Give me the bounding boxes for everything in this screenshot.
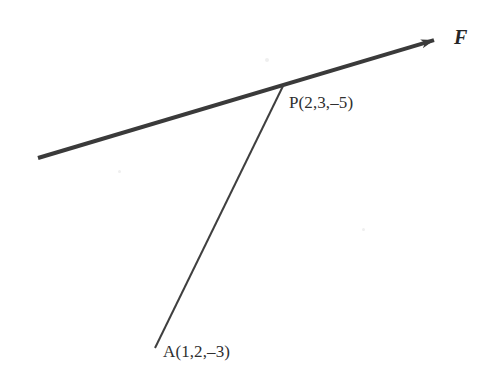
scan-speck — [118, 170, 121, 173]
scan-speck — [265, 58, 269, 62]
position-vector-line — [155, 85, 284, 348]
diagram-geometry — [0, 0, 487, 377]
scan-speck — [362, 228, 365, 231]
force-vector-line — [38, 40, 434, 158]
point-label-a: A(1,2,–3) — [163, 343, 230, 360]
point-label-p: P(2,3,–5) — [289, 94, 353, 111]
force-vector-diagram: P(2,3,–5) A(1,2,–3) F — [0, 0, 487, 377]
vector-label-f: F — [454, 27, 467, 47]
